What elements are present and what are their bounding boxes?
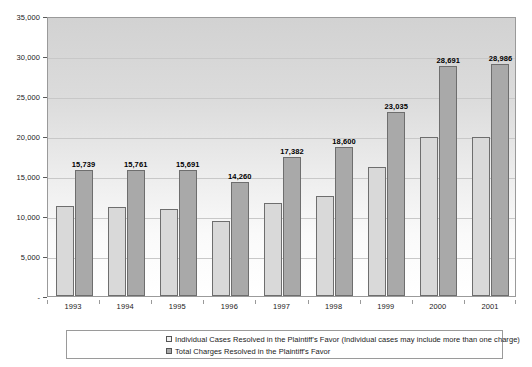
y-axis-tick-label: 10,000 (16, 213, 40, 222)
legend-item-total-charges: Total Charges Resolved in the Plaintiff'… (166, 345, 330, 357)
bar (387, 112, 405, 296)
x-axis-tick-mark (360, 300, 361, 304)
bar-value-label: 15,691 (176, 160, 200, 169)
x-axis-tick-mark (203, 300, 204, 304)
bar (264, 203, 282, 296)
bar (108, 207, 126, 296)
x-axis-tick-label: 2000 (429, 302, 446, 311)
bar (231, 182, 249, 296)
x-axis-tick-mark (464, 300, 465, 304)
bar (368, 167, 386, 296)
y-axis-tick-mark (43, 297, 47, 298)
y-axis: -5,00010,00015,00020,00025,00030,00035,0… (0, 0, 47, 320)
plot-area: 15,73915,76115,69114,26017,38218,60023,0… (47, 17, 516, 297)
bar (75, 170, 93, 296)
bar-value-label: 14,260 (228, 172, 252, 181)
x-axis-tick-label: 1996 (221, 302, 238, 311)
x-axis-tick-mark (255, 300, 256, 304)
bar (316, 196, 334, 296)
bar-value-label: 15,761 (124, 160, 148, 169)
bar (56, 206, 74, 296)
x-axis-tick-label: 1995 (169, 302, 186, 311)
bar-value-label: 28,691 (437, 56, 461, 65)
y-axis-tick-label: 5,000 (21, 253, 40, 262)
bar (472, 137, 490, 296)
x-axis-tick-mark (151, 300, 152, 304)
bar (491, 64, 509, 296)
x-axis: 199319941995199619971998199920002001 (47, 300, 516, 316)
legend-swatch-icon (166, 348, 172, 354)
bar (160, 209, 178, 296)
bar-value-label: 17,382 (280, 147, 304, 156)
legend-label: Total Charges Resolved in the Plaintiff'… (175, 347, 330, 356)
bar (439, 66, 457, 296)
legend-item-individual-cases: Individual Cases Resolved in the Plainti… (166, 333, 520, 345)
bar-value-label: 28,986 (489, 54, 513, 63)
x-axis-tick-label: 1998 (325, 302, 342, 311)
y-axis-tick-label: 15,000 (16, 173, 40, 182)
x-axis-tick-label: 1993 (65, 302, 82, 311)
bar-chart: -5,00010,00015,00020,00025,00030,00035,0… (0, 0, 532, 367)
y-axis-tick-label: 20,000 (16, 133, 40, 142)
x-axis-tick-label: 1997 (273, 302, 290, 311)
bar (420, 137, 438, 296)
bar (212, 221, 230, 296)
y-axis-tick-label: - (37, 293, 40, 302)
x-axis-tick-label: 2001 (481, 302, 498, 311)
y-axis-tick-label: 30,000 (16, 53, 40, 62)
legend-label: Individual Cases Resolved in the Plainti… (175, 335, 520, 344)
bar (127, 170, 145, 296)
x-axis-tick-mark (99, 300, 100, 304)
x-axis-tick-mark (308, 300, 309, 304)
bar-value-label: 23,035 (384, 102, 408, 111)
x-axis-tick-mark (412, 300, 413, 304)
legend-swatch-icon (166, 336, 172, 342)
y-axis-tick-label: 35,000 (16, 13, 40, 22)
x-axis-tick-label: 1999 (377, 302, 394, 311)
bar-value-label: 15,739 (72, 160, 96, 169)
chart-legend: Individual Cases Resolved in the Plainti… (66, 330, 503, 359)
x-axis-tick-label: 1994 (117, 302, 134, 311)
y-axis-tick-label: 25,000 (16, 93, 40, 102)
bar (283, 157, 301, 296)
x-axis-tick-mark (515, 300, 516, 304)
bar-value-label: 18,600 (332, 137, 356, 146)
bar (335, 147, 353, 296)
bar (179, 170, 197, 296)
x-axis-tick-mark (47, 300, 48, 304)
